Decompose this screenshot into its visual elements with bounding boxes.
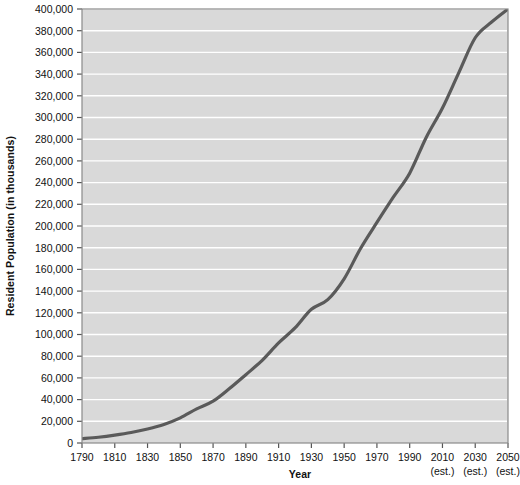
y-axis-tick-label: 360,000: [35, 46, 73, 58]
y-axis-tick-label: 140,000: [35, 285, 73, 297]
x-axis-tick-label: 2050: [496, 451, 520, 463]
y-axis-tick-label: 300,000: [35, 111, 73, 123]
population-line-chart: 020,00040,00060,00080,000100,000120,0001…: [0, 0, 520, 485]
x-axis-tick-label: 1990: [398, 451, 422, 463]
y-axis-tick-label: 320,000: [35, 90, 73, 102]
chart-canvas: 020,00040,00060,00080,000100,000120,0001…: [0, 0, 520, 485]
y-axis-tick-label: 100,000: [35, 328, 73, 340]
y-axis-tick-label: 60,000: [41, 372, 73, 384]
y-axis-ticks: [77, 9, 82, 443]
y-axis-tick-label: 380,000: [35, 25, 73, 37]
x-axis-tick-label: 1830: [136, 451, 160, 463]
y-axis-tick-label: 180,000: [35, 242, 73, 254]
y-axis-tick-label: 240,000: [35, 176, 73, 188]
y-axis-tick-label: 20,000: [41, 415, 73, 427]
y-axis-title: Resident Population (in thousands): [4, 136, 16, 316]
y-axis-tick-label: 160,000: [35, 263, 73, 275]
y-axis-tick-label: 0: [67, 437, 73, 449]
y-axis-tick-label: 80,000: [41, 350, 73, 362]
y-axis-tick-label: 280,000: [35, 133, 73, 145]
y-axis-tick-label: 220,000: [35, 198, 73, 210]
x-axis-tick-label: 1950: [332, 451, 356, 463]
x-axis-tick-label: 1930: [300, 451, 324, 463]
y-axis-tick-labels: 020,00040,00060,00080,000100,000120,0001…: [35, 3, 73, 449]
y-axis-tick-label: 260,000: [35, 155, 73, 167]
x-axis-tick-sublabel: (est.): [463, 465, 487, 477]
x-axis-tick-label: 1970: [365, 451, 389, 463]
x-axis-tick-label: 2030: [464, 451, 488, 463]
x-axis-title: Year: [289, 468, 312, 480]
x-axis-tick-sublabel: (est.): [496, 465, 520, 477]
y-axis-tick-label: 40,000: [41, 393, 73, 405]
x-axis-tick-sublabel: (est.): [431, 465, 455, 477]
x-axis-tick-label: 1810: [103, 451, 127, 463]
x-axis-tick-label: 1890: [234, 451, 258, 463]
x-axis-tick-label: 1910: [267, 451, 291, 463]
y-axis-tick-label: 340,000: [35, 68, 73, 80]
x-axis-tick-label: 2010: [431, 451, 455, 463]
x-axis-tick-label: 1790: [70, 451, 94, 463]
y-axis-tick-label: 120,000: [35, 307, 73, 319]
y-axis-tick-label: 400,000: [35, 3, 73, 15]
x-axis-tick-label: 1850: [169, 451, 193, 463]
x-axis-tick-label: 1870: [201, 451, 225, 463]
y-axis-tick-label: 200,000: [35, 220, 73, 232]
